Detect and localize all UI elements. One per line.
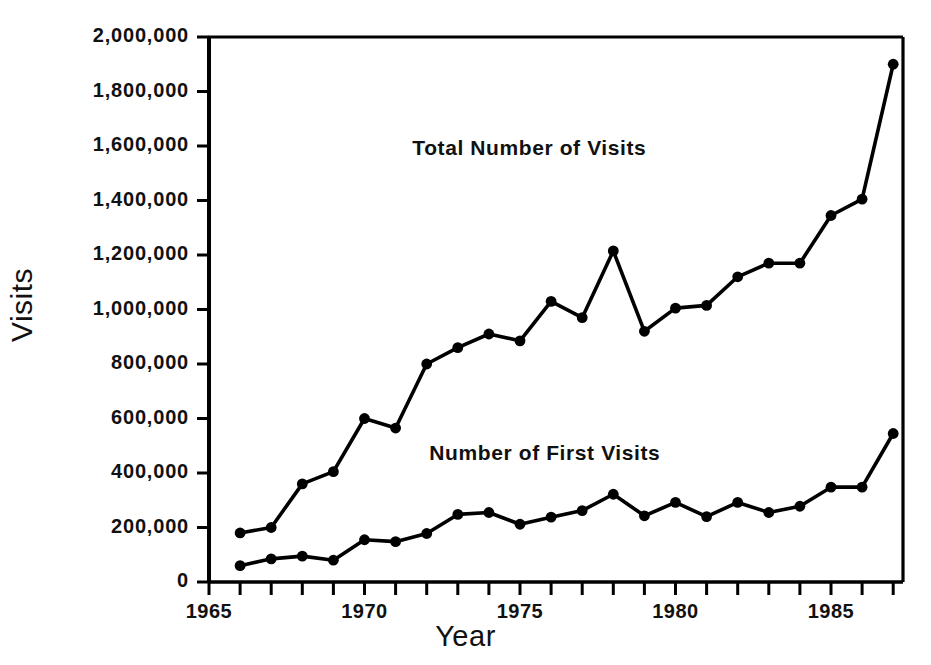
data-point-marker — [857, 194, 868, 205]
series-annotation-label: Total Number of Visits — [412, 136, 646, 160]
data-point-marker — [515, 335, 526, 346]
data-point-marker — [328, 466, 339, 477]
series-annotation-label: Number of First Visits — [429, 441, 660, 465]
data-point-marker — [577, 505, 588, 516]
y-axis-tick-label: 1,600,000 — [0, 133, 189, 156]
data-point-marker — [452, 342, 463, 353]
y-axis-tick-label: 200,000 — [0, 515, 189, 538]
data-point-marker — [421, 528, 432, 539]
data-point-marker — [826, 482, 837, 493]
data-point-marker — [639, 326, 650, 337]
data-point-marker — [484, 507, 495, 518]
data-point-marker — [732, 271, 743, 282]
y-axis-tick-label: 600,000 — [0, 406, 189, 429]
y-axis-tick-label: 400,000 — [0, 460, 189, 483]
data-point-marker — [235, 528, 246, 539]
data-point-marker — [546, 296, 557, 307]
x-axis-tick-label: 1985 — [781, 600, 881, 623]
x-axis-tick-label: 1980 — [626, 600, 726, 623]
y-axis-tick-label: 1,000,000 — [0, 297, 189, 320]
data-series — [235, 59, 899, 538]
data-point-marker — [515, 519, 526, 530]
data-point-marker — [608, 489, 619, 500]
data-point-marker — [763, 258, 774, 269]
y-axis-tick-label: 0 — [0, 569, 189, 592]
data-point-marker — [732, 497, 743, 508]
data-point-marker — [701, 511, 712, 522]
data-point-marker — [328, 555, 339, 566]
y-axis-tick-label: 800,000 — [0, 351, 189, 374]
data-point-marker — [546, 512, 557, 523]
data-point-marker — [297, 551, 308, 562]
data-point-marker — [639, 510, 650, 521]
data-point-marker — [701, 300, 712, 311]
data-point-marker — [266, 522, 277, 533]
data-point-marker — [763, 507, 774, 518]
chart-figure: Visits Year 0200,000400,000600,000800,00… — [0, 0, 931, 665]
data-point-marker — [795, 501, 806, 512]
data-point-marker — [359, 534, 370, 545]
data-point-marker — [390, 423, 401, 434]
data-point-marker — [484, 329, 495, 340]
data-point-marker — [857, 482, 868, 493]
data-point-marker — [670, 497, 681, 508]
data-point-marker — [795, 258, 806, 269]
x-axis-title: Year — [0, 620, 931, 653]
data-point-marker — [359, 413, 370, 424]
plot-frame — [209, 37, 904, 582]
data-point-marker — [421, 359, 432, 370]
data-point-marker — [826, 210, 837, 221]
y-axis-tick-label: 2,000,000 — [0, 24, 189, 47]
x-axis-tick-label: 1965 — [159, 600, 259, 623]
data-point-marker — [577, 312, 588, 323]
data-point-marker — [670, 303, 681, 314]
x-axis-tick-label: 1970 — [315, 600, 415, 623]
x-axis-ticks — [209, 582, 893, 595]
data-point-marker — [888, 59, 899, 70]
data-point-marker — [390, 536, 401, 547]
data-point-marker — [888, 428, 899, 439]
y-axis-tick-label: 1,400,000 — [0, 188, 189, 211]
y-axis-tick-label: 1,200,000 — [0, 242, 189, 265]
data-point-marker — [235, 560, 246, 571]
data-point-marker — [608, 246, 619, 257]
data-point-marker — [297, 479, 308, 490]
y-axis-tick-label: 1,800,000 — [0, 79, 189, 102]
data-point-marker — [266, 553, 277, 564]
x-axis-tick-label: 1975 — [470, 600, 570, 623]
data-point-marker — [452, 509, 463, 520]
